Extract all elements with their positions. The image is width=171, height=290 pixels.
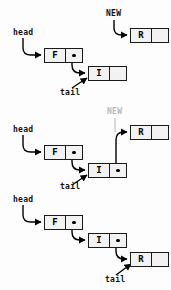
node-i-p3: I xyxy=(88,233,127,248)
node-f-pointer-p3 xyxy=(66,216,82,229)
panel-3: head tail F I R xyxy=(0,189,171,290)
node-r-p2: R xyxy=(130,125,169,140)
node-f-data-p3: F xyxy=(45,216,66,229)
node-f-p1: F xyxy=(44,48,83,63)
label-new-p1: NEW xyxy=(106,10,121,18)
label-head-p2: head xyxy=(13,126,33,134)
node-r-data-p1: R xyxy=(131,29,152,42)
panel-1: head NEW tail F I R xyxy=(0,0,171,97)
label-tail-p3: tail xyxy=(105,276,125,284)
node-i-data-p2: I xyxy=(89,164,110,177)
node-r-pointer-p2 xyxy=(152,126,168,139)
node-i-p1: I xyxy=(88,66,127,81)
node-r-pointer-p1 xyxy=(152,29,168,42)
node-i-pointer-p2 xyxy=(110,164,126,177)
node-r-data-p3: R xyxy=(131,253,152,266)
node-i-data-p3: I xyxy=(89,234,110,247)
node-i-p2: I xyxy=(88,163,127,178)
node-r-data-p2: R xyxy=(131,126,152,139)
node-f-pointer-p2 xyxy=(66,146,82,159)
node-f-p3: F xyxy=(44,215,83,230)
node-f-p2: F xyxy=(44,145,83,160)
panel-2: head NEW tail F I R xyxy=(0,97,171,189)
diagram-canvas: head NEW tail F I R head NEW tail F I xyxy=(0,0,171,290)
node-r-pointer-p3 xyxy=(152,253,168,266)
node-r-p3: R xyxy=(130,252,169,267)
node-f-data-p1: F xyxy=(45,49,66,62)
node-i-data-p1: I xyxy=(89,67,110,80)
node-r-p1: R xyxy=(130,28,169,43)
label-head-p3: head xyxy=(13,196,33,204)
label-head-p1: head xyxy=(13,29,33,37)
node-f-pointer-p1 xyxy=(66,49,82,62)
label-new-p2: NEW xyxy=(107,108,122,116)
label-tail-p1: tail xyxy=(60,89,80,97)
node-i-pointer-p3 xyxy=(110,234,126,247)
node-i-pointer-p1 xyxy=(110,67,126,80)
node-f-data-p2: F xyxy=(45,146,66,159)
